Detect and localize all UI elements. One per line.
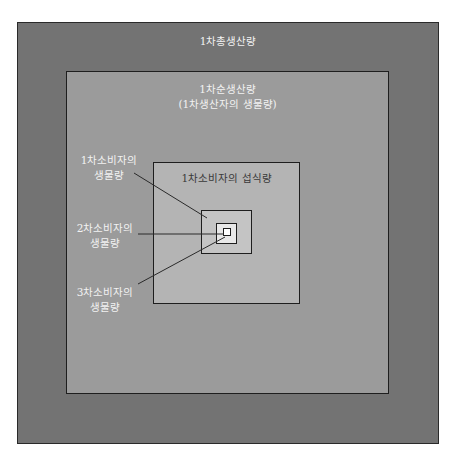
callout-secondary-consumer-line1: 2차소비자의 xyxy=(70,221,140,235)
callout-secondary-consumer-line2: 생물량 xyxy=(70,236,140,250)
leader-line-primary xyxy=(134,173,207,218)
callout-primary-consumer-line1: 1차소비자의 xyxy=(74,153,144,167)
callout-tertiary-consumer-line1: 3차소비자의 xyxy=(70,285,140,299)
leader-lines xyxy=(0,0,453,458)
callout-tertiary-consumer-line2: 생물량 xyxy=(70,300,140,314)
leader-line-tertiary xyxy=(138,237,225,284)
callout-primary-consumer-line2: 생물량 xyxy=(74,168,144,182)
